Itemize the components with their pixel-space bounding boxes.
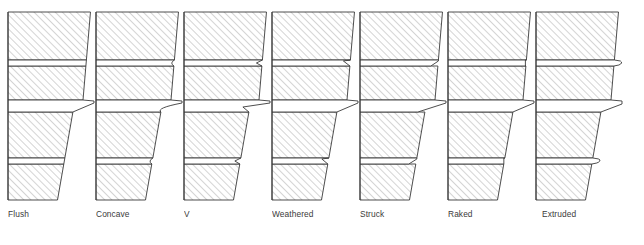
- brick-course: [96, 164, 152, 200]
- mortar-joint: [96, 158, 153, 164]
- brick-course: [184, 66, 262, 100]
- brick-course: [536, 12, 618, 60]
- joint-figure-extruded: [528, 0, 628, 206]
- brick-course: [272, 164, 328, 200]
- brick-course: [96, 12, 178, 60]
- mortar-joint-ledge: [184, 100, 270, 112]
- brick-course: [96, 66, 174, 100]
- joint-figure-v: [176, 0, 276, 206]
- mortar-joint: [360, 158, 417, 164]
- brick-course: [8, 164, 64, 200]
- brick-course: [272, 66, 350, 100]
- brick-course: [536, 66, 614, 100]
- mortar-joint: [184, 158, 241, 164]
- mortar-joint: [272, 60, 350, 66]
- mortar-joint: [272, 158, 329, 164]
- joint-label-struck: Struck: [360, 208, 384, 220]
- mortar-joint: [8, 158, 65, 164]
- brick-course: [448, 66, 526, 100]
- joint-label-raked: Raked: [448, 208, 473, 220]
- brick-course: [272, 112, 337, 158]
- brick-course: [8, 12, 90, 60]
- brick-course: [184, 12, 266, 60]
- brick-course: [360, 66, 438, 100]
- mortar-joint-diagram: FlushConcaveVWeatheredStruckRakedExtrude…: [0, 0, 644, 245]
- brick-course: [360, 12, 442, 60]
- joint-column-weathered: Weathered: [264, 0, 364, 245]
- mortar-joint-ledge: [360, 100, 446, 112]
- mortar-joint: [360, 60, 438, 66]
- mortar-joint: [536, 158, 600, 164]
- joint-column-v: V: [176, 0, 276, 245]
- brick-course: [272, 12, 354, 60]
- mortar-joint: [8, 60, 86, 66]
- mortar-joint-ledge: [536, 100, 622, 112]
- joint-label-v: V: [184, 208, 190, 220]
- joint-figure-flush: [0, 0, 100, 206]
- mortar-joint: [448, 158, 505, 164]
- joint-label-flush: Flush: [8, 208, 29, 220]
- brick-course: [448, 164, 504, 200]
- mortar-joint-ledge: [8, 100, 94, 112]
- brick-course: [536, 164, 592, 200]
- joint-column-raked: Raked: [440, 0, 540, 245]
- brick-course: [96, 112, 161, 158]
- brick-course: [448, 112, 513, 158]
- mortar-joint: [448, 60, 526, 66]
- mortar-joint-ledge: [96, 100, 182, 112]
- joint-column-flush: Flush: [0, 0, 100, 245]
- mortar-joint-ledge: [448, 100, 534, 112]
- joint-column-concave: Concave: [88, 0, 188, 245]
- joint-figure-weathered: [264, 0, 364, 206]
- mortar-joint: [96, 60, 174, 66]
- joint-column-struck: Struck: [352, 0, 452, 245]
- joint-figure-struck: [352, 0, 452, 206]
- joint-label-extruded: Extruded: [542, 208, 576, 220]
- mortar-joint-ledge: [272, 100, 358, 112]
- mortar-joint: [536, 60, 622, 66]
- joint-label-weathered: Weathered: [272, 208, 314, 220]
- brick-course: [8, 66, 86, 100]
- brick-course: [360, 112, 425, 158]
- joint-label-concave: Concave: [96, 208, 130, 220]
- mortar-joint: [184, 60, 262, 66]
- joint-column-extruded: Extruded: [528, 0, 628, 245]
- joint-figure-concave: [88, 0, 188, 206]
- brick-course: [184, 112, 249, 158]
- brick-course: [8, 112, 73, 158]
- brick-course: [360, 164, 416, 200]
- brick-course: [184, 164, 240, 200]
- brick-course: [536, 112, 601, 158]
- joint-figure-raked: [440, 0, 540, 206]
- brick-course: [448, 12, 530, 60]
